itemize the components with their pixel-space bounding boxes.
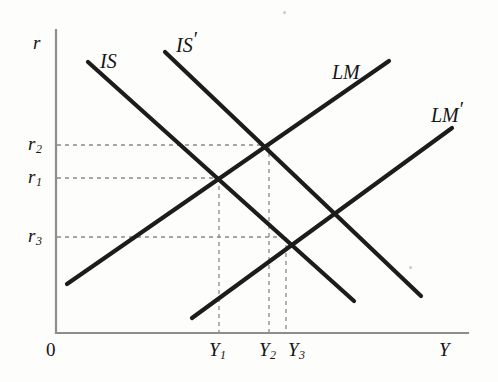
curve-label-IS: IS [100, 45, 118, 71]
x-tick-sub-Y3: 3 [299, 348, 306, 362]
x-axis-label: Y [439, 340, 450, 359]
origin-label: 0 [46, 340, 56, 359]
y-tick-label-r2: r2 [28, 134, 42, 155]
x-tick-sub-Y1: 1 [220, 348, 227, 362]
y-tick-sub-r3: 3 [35, 234, 42, 248]
curve-label-LM-prime-text: LM [431, 104, 459, 126]
y-axis-label: r [33, 33, 40, 52]
y-axis-label-text: r [33, 32, 40, 53]
scan-speck [409, 266, 412, 269]
x-tick-base-Y3: Y [288, 339, 299, 360]
origin-label-text: 0 [46, 339, 56, 360]
curve-label-IS-prime: IS′ [176, 29, 198, 55]
curve-label-IS-prime-mark: ′ [193, 28, 198, 50]
is-lm-chart-figure: r Y 0 r2 r1 r3 Y1 Y2 Y3 IS IS′ LM LM′ [0, 0, 498, 382]
x-tick-label-Y1: Y1 [209, 340, 226, 361]
y-tick-sub-r1: 1 [35, 175, 42, 189]
curve-label-IS-prime-text: IS [176, 34, 193, 56]
curve-label-LM-prime: LM′ [431, 99, 464, 125]
curve-IS-prime [165, 52, 421, 296]
x-tick-label-Y2: Y2 [259, 340, 276, 361]
chart-canvas [0, 0, 498, 382]
curve-LM [67, 61, 389, 284]
scan-speck [283, 11, 286, 14]
x-tick-sub-Y2: 2 [270, 348, 277, 362]
curve-label-LM-prime-mark [360, 55, 361, 77]
curve-label-IS-prime-mark [117, 44, 118, 66]
x-tick-label-Y3: Y3 [288, 340, 305, 361]
curve-label-IS-text: IS [100, 50, 117, 72]
x-axis-label-text: Y [439, 339, 450, 360]
y-tick-label-r1: r1 [28, 167, 42, 188]
y-tick-sub-r2: 2 [35, 142, 42, 156]
curve-IS [88, 62, 354, 301]
x-tick-base-Y1: Y [209, 339, 220, 360]
curve-label-LM-prime-mark: ′ [459, 98, 464, 120]
curve-label-LM: LM [332, 56, 361, 82]
x-tick-base-Y2: Y [259, 339, 270, 360]
curve-label-LM-text: LM [332, 61, 360, 83]
y-tick-label-r3: r3 [28, 226, 42, 247]
